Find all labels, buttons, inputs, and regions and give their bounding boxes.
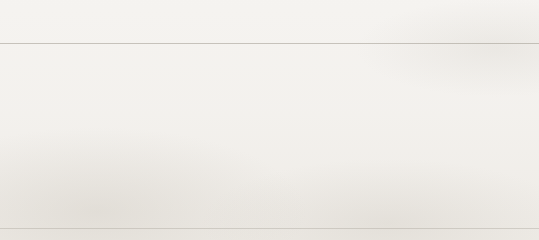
hyperbola-graph-vertical (0, 0, 539, 240)
figure-page (0, 0, 539, 240)
